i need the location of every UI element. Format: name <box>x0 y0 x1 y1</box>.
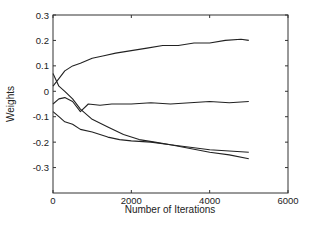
axes: 0.30.20.10-0.1-0.2-0.30200040006000 <box>33 10 299 207</box>
y-axis-label: Weights <box>5 86 16 122</box>
y-tick-label: 0.2 <box>36 35 49 46</box>
y-tick-label: -0.2 <box>33 137 49 148</box>
x-axis-label: Number of Iterations <box>125 204 216 215</box>
x-tick-label: 0 <box>50 195 55 206</box>
series-line-weight-1 <box>53 39 249 86</box>
series-line-weight-3 <box>53 74 249 153</box>
series-line-weight-4 <box>53 112 249 159</box>
series-line-weight-2 <box>53 98 249 112</box>
y-tick-label: -0.3 <box>33 162 49 173</box>
y-tick-label: -0.1 <box>33 111 49 122</box>
y-tick-label: 0.1 <box>36 60 49 71</box>
x-tick-label: 6000 <box>277 195 298 206</box>
y-tick-label: 0.3 <box>36 10 49 21</box>
y-tick-label: 0 <box>44 86 49 97</box>
series-layer <box>53 39 249 159</box>
line-chart: 0.30.20.10-0.1-0.2-0.30200040006000 Numb… <box>0 0 315 226</box>
